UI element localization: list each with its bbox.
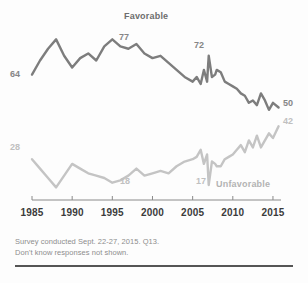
x-axis-tick-2005: 2005 bbox=[181, 207, 204, 218]
x-axis-tick-2000: 2000 bbox=[141, 207, 164, 218]
chart-container: Favorable Unfavorable 64 77 72 50 28 18 … bbox=[0, 0, 308, 283]
series-title-unfavorable: Unfavorable bbox=[216, 180, 270, 189]
footnote-line-2: Don't know responses not shown. bbox=[15, 248, 295, 259]
point-label-favorable-end: 50 bbox=[283, 99, 293, 108]
footnote: Survey conducted Sept. 22-27, 2015. Q13.… bbox=[15, 237, 295, 258]
bottom-divider bbox=[15, 265, 293, 267]
x-axis-tick-1990: 1990 bbox=[61, 207, 84, 218]
series-title-favorable: Favorable bbox=[124, 12, 168, 21]
x-axis: 1985199019952000200520102015 bbox=[0, 196, 308, 226]
footnote-line-1: Survey conducted Sept. 22-27, 2015. Q13. bbox=[15, 237, 295, 248]
line-chart-plot bbox=[0, 0, 308, 225]
series-line-favorable bbox=[32, 39, 279, 110]
point-label-unfavorable-low-1995: 18 bbox=[120, 177, 130, 186]
x-axis-tick-2010: 2010 bbox=[221, 207, 244, 218]
point-label-unfavorable-low-2007: 17 bbox=[196, 177, 206, 186]
point-label-favorable-start: 64 bbox=[10, 70, 20, 79]
x-axis-tick-1985: 1985 bbox=[20, 207, 43, 218]
point-label-unfavorable-start: 28 bbox=[10, 143, 20, 152]
x-axis-tick-2015: 2015 bbox=[261, 207, 284, 218]
point-label-unfavorable-end: 42 bbox=[283, 117, 293, 126]
point-label-favorable-spike: 72 bbox=[194, 41, 204, 50]
point-label-favorable-peak: 77 bbox=[119, 33, 129, 42]
x-axis-tick-1995: 1995 bbox=[101, 207, 124, 218]
